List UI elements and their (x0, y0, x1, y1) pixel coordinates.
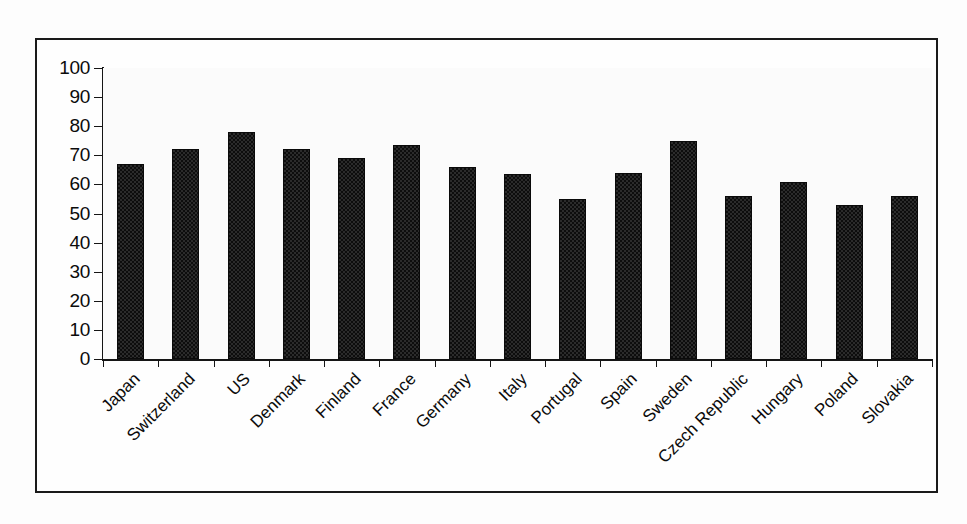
x-tick (490, 359, 491, 367)
bar (172, 149, 199, 359)
x-axis-label-text: Slovakia (859, 370, 917, 428)
x-axis-label-text: Japan (98, 370, 143, 415)
y-tick-label: 70 (69, 145, 90, 164)
y-tick-label: 30 (69, 262, 90, 281)
x-tick (103, 359, 104, 367)
y-tick-label: 50 (69, 204, 90, 223)
bar (228, 132, 255, 359)
bar (780, 182, 807, 360)
x-tick (379, 359, 380, 367)
x-tick (821, 359, 822, 367)
x-tick (214, 359, 215, 367)
x-tick (545, 359, 546, 367)
x-axis-line (102, 359, 933, 361)
y-tick-label: 0 (80, 349, 90, 368)
bar (725, 196, 752, 359)
bar (504, 174, 531, 359)
x-tick (600, 359, 601, 367)
x-axis-label-text: Sweden (640, 370, 696, 426)
x-axis-label-text: Spain (597, 370, 640, 413)
y-tick-label: 100 (59, 58, 90, 77)
y-tick-label: 90 (69, 87, 90, 106)
bar (891, 196, 918, 359)
bar (283, 149, 310, 359)
x-tick (324, 359, 325, 367)
y-tick-label: 40 (69, 233, 90, 252)
x-axis-label-text: US (224, 370, 253, 399)
x-tick (435, 359, 436, 367)
bar (670, 141, 697, 359)
chart-frame: 1009080706050403020100 JapanSwitzerlandU… (35, 38, 938, 493)
x-axis-label-text: Portugal (528, 370, 586, 428)
bar (615, 173, 642, 359)
x-axis-label-text: Poland (812, 370, 862, 420)
y-tick-label: 80 (69, 116, 90, 135)
plot-area (103, 68, 932, 359)
x-tick (877, 359, 878, 367)
y-tick-label: 60 (69, 174, 90, 193)
x-tick (656, 359, 657, 367)
bar (559, 199, 586, 359)
x-tick (932, 359, 933, 367)
x-axis-label-text: Italy (495, 370, 530, 405)
x-axis-label-text: Finland (312, 370, 364, 422)
y-tick-label: 10 (69, 320, 90, 339)
x-tick (711, 359, 712, 367)
x-axis-label-text: France (370, 370, 420, 420)
bar (449, 167, 476, 359)
x-tick (158, 359, 159, 367)
bar (117, 164, 144, 359)
y-tick-label: 20 (69, 291, 90, 310)
x-tick (766, 359, 767, 367)
bar (836, 205, 863, 359)
bar (393, 145, 420, 359)
bar (338, 158, 365, 359)
x-tick (269, 359, 270, 367)
chart-page: 1009080706050403020100 JapanSwitzerlandU… (0, 0, 967, 524)
